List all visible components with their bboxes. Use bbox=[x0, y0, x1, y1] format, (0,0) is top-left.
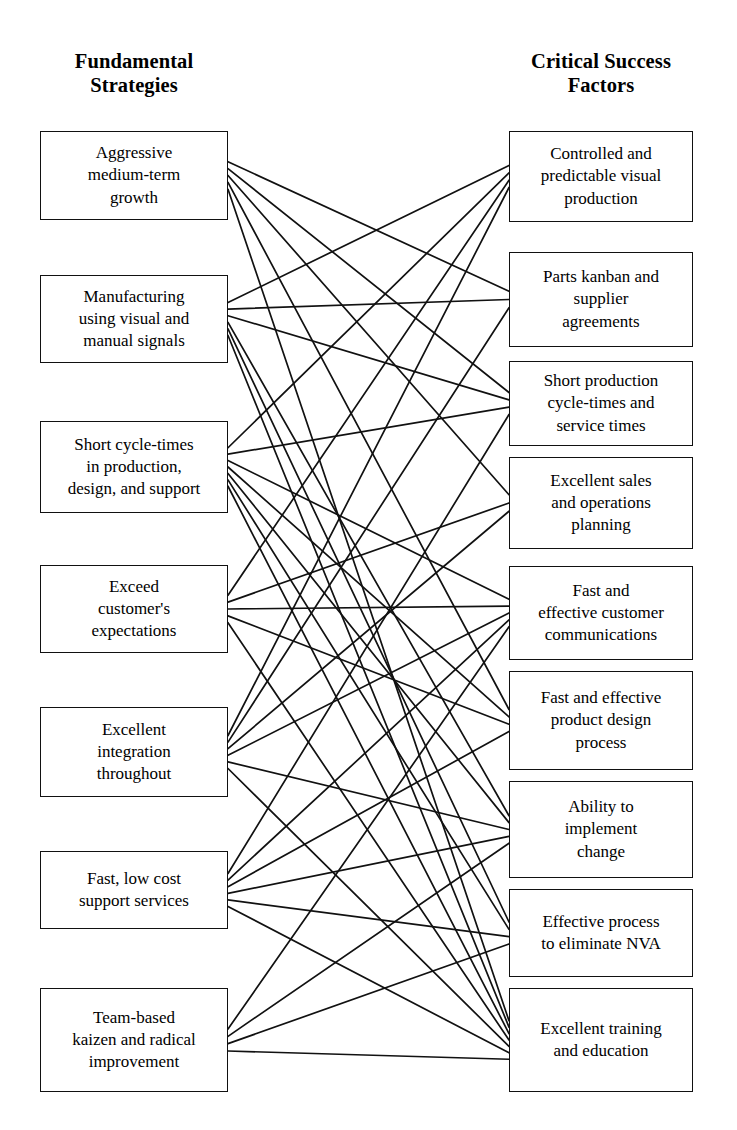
connection-line bbox=[228, 473, 509, 822]
connection-line bbox=[228, 308, 509, 742]
connection-line bbox=[228, 623, 509, 1040]
strategy-node-box[interactable]: Exceed customer's expectations bbox=[40, 565, 228, 653]
strategy-node-box[interactable]: Short cycle-times in production, design,… bbox=[40, 421, 228, 513]
connection-line bbox=[228, 900, 509, 937]
connection-line bbox=[228, 944, 509, 1044]
right-column-heading-text: Critical Success Factors bbox=[501, 50, 701, 98]
factor-node-box[interactable]: Short production cycle-times and service… bbox=[509, 361, 693, 446]
factor-node-label: Excellent sales and operations planning bbox=[515, 470, 687, 536]
connection-line bbox=[228, 407, 509, 454]
factor-node-box[interactable]: Controlled and predictable visual produc… bbox=[509, 131, 693, 222]
factor-node-label: Fast and effective customer communicatio… bbox=[515, 580, 687, 646]
connection-line bbox=[228, 907, 509, 1053]
connection-line bbox=[228, 769, 509, 1047]
connection-line bbox=[228, 503, 509, 602]
factor-node-label: Parts kanban and supplier agreements bbox=[515, 266, 687, 332]
connection-line bbox=[228, 762, 509, 830]
strategy-node-box[interactable]: Aggressive medium-term growth bbox=[40, 131, 228, 220]
strategy-node-label: Manufacturing using visual and manual si… bbox=[46, 286, 222, 352]
factor-node-box[interactable]: Excellent sales and operations planning bbox=[509, 457, 693, 549]
factor-node-box[interactable]: Ability to implement change bbox=[509, 781, 693, 878]
connection-line bbox=[228, 182, 509, 709]
diagram-root: Fundamental Strategies Critical Success … bbox=[0, 0, 737, 1130]
connection-line bbox=[228, 322, 509, 815]
factor-node-box[interactable]: Excellent training and education bbox=[509, 988, 693, 1092]
factor-node-label: Fast and effective product design proces… bbox=[515, 687, 687, 753]
connection-line bbox=[228, 166, 509, 303]
connection-line bbox=[228, 613, 509, 755]
connection-line bbox=[228, 511, 509, 748]
factor-node-label: Short production cycle-times and service… bbox=[515, 370, 687, 436]
connection-line bbox=[228, 173, 509, 448]
strategy-node-label: Aggressive medium-term growth bbox=[46, 142, 222, 208]
connection-line bbox=[228, 188, 509, 736]
strategy-node-box[interactable]: Team-based kaizen and radical improvemen… bbox=[40, 988, 228, 1092]
connection-line bbox=[228, 336, 509, 1028]
connection-line bbox=[228, 616, 509, 724]
connection-line bbox=[228, 480, 509, 930]
connection-line bbox=[228, 1051, 509, 1059]
connection-line bbox=[228, 620, 509, 880]
factor-node-box[interactable]: Parts kanban and supplier agreements bbox=[509, 252, 693, 347]
connection-line bbox=[228, 606, 509, 609]
factor-node-box[interactable]: Effective process to eliminate NVA bbox=[509, 889, 693, 977]
strategy-node-label: Fast, low cost support services bbox=[46, 868, 222, 912]
connection-line bbox=[228, 189, 509, 1021]
connection-line bbox=[228, 300, 509, 310]
connection-line bbox=[228, 467, 509, 717]
factor-node-label: Ability to implement change bbox=[515, 796, 687, 862]
strategy-node-label: Exceed customer's expectations bbox=[46, 576, 222, 642]
connection-line bbox=[228, 627, 509, 1029]
connection-line bbox=[228, 169, 509, 393]
connection-line bbox=[228, 180, 509, 595]
edge-group bbox=[228, 162, 509, 1060]
strategy-node-label: Excellent integration throughout bbox=[46, 719, 222, 785]
strategy-node-box[interactable]: Fast, low cost support services bbox=[40, 851, 228, 929]
connection-line bbox=[228, 176, 509, 495]
connection-line bbox=[228, 843, 509, 1036]
connection-line bbox=[228, 162, 509, 292]
factor-node-label: Controlled and predictable visual produc… bbox=[515, 143, 687, 209]
strategy-node-label: Short cycle-times in production, design,… bbox=[46, 434, 222, 500]
connection-line bbox=[228, 415, 509, 874]
left-column-heading-text: Fundamental Strategies bbox=[40, 50, 228, 98]
connection-line bbox=[228, 329, 509, 922]
connection-line bbox=[228, 836, 509, 893]
connection-line bbox=[228, 486, 509, 1033]
left-column-heading: Fundamental Strategies bbox=[40, 50, 228, 98]
strategy-node-box[interactable]: Manufacturing using visual and manual si… bbox=[40, 275, 228, 363]
connection-line bbox=[228, 732, 509, 887]
connection-line bbox=[228, 461, 509, 600]
factor-node-box[interactable]: Fast and effective customer communicatio… bbox=[509, 566, 693, 660]
connection-line bbox=[228, 316, 509, 400]
strategy-node-box[interactable]: Excellent integration throughout bbox=[40, 707, 228, 797]
right-column-heading: Critical Success Factors bbox=[501, 50, 701, 98]
factor-node-box[interactable]: Fast and effective product design proces… bbox=[509, 671, 693, 770]
factor-node-label: Excellent training and education bbox=[515, 1018, 687, 1062]
strategy-node-label: Team-based kaizen and radical improvemen… bbox=[46, 1007, 222, 1073]
factor-node-label: Effective process to eliminate NVA bbox=[515, 911, 687, 955]
